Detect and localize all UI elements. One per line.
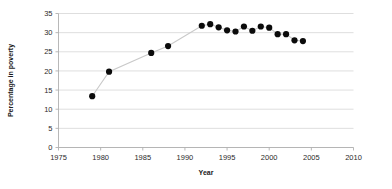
data-point xyxy=(266,25,272,31)
x-tick-label-1980: 1980 xyxy=(92,153,109,162)
y-tick-label-25: 25 xyxy=(44,47,52,56)
data-point xyxy=(207,21,213,27)
x-tick-label-1985: 1985 xyxy=(134,153,151,162)
x-tick-label-1990: 1990 xyxy=(177,153,194,162)
data-point xyxy=(148,50,154,56)
data-point xyxy=(258,23,264,29)
data-point xyxy=(165,43,171,49)
y-tick-label-20: 20 xyxy=(44,67,52,76)
data-point xyxy=(199,23,205,29)
x-tick-label-1975: 1975 xyxy=(50,153,67,162)
y-tick-label-group: 05101520253035 xyxy=(44,9,52,152)
tickmark-group xyxy=(56,14,354,151)
y-tick-label-0: 0 xyxy=(48,143,52,152)
data-point xyxy=(232,28,238,34)
x-tick-label-2005: 2005 xyxy=(303,153,320,162)
data-point xyxy=(106,69,112,75)
poverty-scatter-chart: 05101520253035 1975198019851990199520002… xyxy=(0,0,392,189)
x-tick-label-2000: 2000 xyxy=(261,153,278,162)
series-connector-line xyxy=(92,24,303,96)
y-tick-label-15: 15 xyxy=(44,86,52,95)
y-tick-label-5: 5 xyxy=(48,124,52,133)
data-point xyxy=(300,38,306,44)
y-tick-label-10: 10 xyxy=(44,105,52,114)
x-tick-label-group: 19751980198519901995200020052010 xyxy=(50,153,362,162)
y-axis-title: Percentage in poverty xyxy=(7,44,15,117)
data-point xyxy=(89,93,95,99)
data-point xyxy=(291,37,297,43)
x-axis-title: Year xyxy=(199,169,214,176)
x-tick-label-1995: 1995 xyxy=(219,153,236,162)
chart-canvas: 05101520253035 1975198019851990199520002… xyxy=(0,0,392,189)
y-tick-label-30: 30 xyxy=(44,28,52,37)
data-point xyxy=(283,31,289,37)
data-point xyxy=(241,23,247,29)
data-point xyxy=(249,28,255,34)
y-tick-label-35: 35 xyxy=(44,9,52,18)
data-point xyxy=(275,31,281,37)
data-point xyxy=(216,24,222,30)
x-tick-label-2010: 2010 xyxy=(345,153,362,162)
data-point xyxy=(224,27,230,33)
